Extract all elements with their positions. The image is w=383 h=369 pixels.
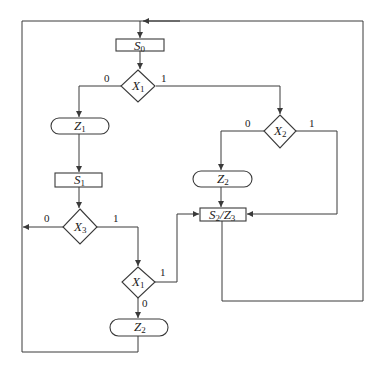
x3-one-branch <box>97 227 138 266</box>
edge-label-x1-top-0: 0 <box>104 72 110 84</box>
edge-label-x1-top-1: 1 <box>161 72 167 84</box>
edge-label-x1-bottom-0: 0 <box>142 297 148 309</box>
edge-label-x3-1: 1 <box>113 212 119 224</box>
edge-label-x1-bottom-1: 1 <box>160 266 166 278</box>
asm-flowchart: S0 X1 Z1 S1 X3 X1 Z2 X2 Z2 S2 <box>0 0 383 369</box>
edge-label-x2-0: 0 <box>245 117 251 129</box>
x1-one-branch <box>156 86 280 114</box>
conditional-output-z1: Z1 <box>51 118 109 134</box>
conditional-output-z2-right: Z2 <box>193 171 252 187</box>
decision-diamond-x3: X3 <box>63 209 97 244</box>
state-box-s1: S1 <box>55 172 102 188</box>
conditional-output-z2-bottom: Z2 <box>110 319 168 336</box>
x1-zero-branch <box>79 86 121 117</box>
decision-diamond-x2: X2 <box>264 115 296 148</box>
decision-diamond-x1-top: X1 <box>121 70 155 102</box>
x2-one-branch <box>247 131 337 214</box>
state-box-s0: S0 <box>116 38 164 54</box>
state-box-s2-z3: S2/Z3 <box>200 207 246 223</box>
edge-label-x2-1: 1 <box>309 117 315 129</box>
x2-zero-branch <box>221 131 264 170</box>
decision-diamond-x1-bottom: X1 <box>122 267 155 298</box>
edge-label-x3-0: 0 <box>44 212 50 224</box>
z2-return-line <box>22 336 138 352</box>
